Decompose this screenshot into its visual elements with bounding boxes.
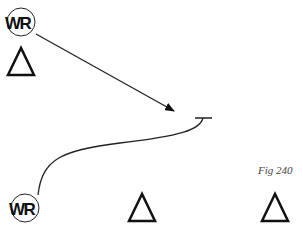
route-arrow	[36, 34, 174, 111]
defender-top-left-triangle	[8, 48, 34, 75]
wr-bottom-player: WR	[9, 194, 39, 222]
wr-top-label: WR	[5, 14, 32, 33]
wr-top-player: WR	[5, 8, 35, 36]
route-curve	[38, 118, 203, 195]
diagram-canvas: WR WR	[0, 0, 303, 231]
play-diagram: WR WR Fig 240	[0, 0, 303, 231]
defender-bottom-right-triangle	[262, 194, 288, 221]
defender-bottom-middle-triangle	[129, 194, 155, 221]
wr-bottom-label: WR	[9, 200, 36, 219]
figure-label: Fig 240	[258, 164, 293, 176]
